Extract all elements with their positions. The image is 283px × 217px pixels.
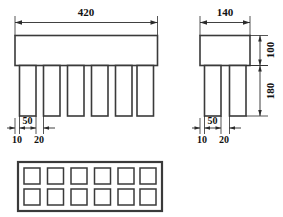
front-width-label: 420 <box>78 6 95 18</box>
front-width-arrow-right <box>151 20 158 24</box>
side-width-arrow-right <box>243 20 250 24</box>
side-legwidth-arrow-left <box>205 126 211 130</box>
front-leg-6 <box>137 66 154 117</box>
side-legwidth-label: 50 <box>208 115 218 126</box>
side-legheight-arrow-bottom <box>258 110 262 116</box>
side-elevation-view: 140 100 180 <box>192 6 276 146</box>
front-width-arrow-left <box>15 20 22 24</box>
side-legheight-arrow-top <box>258 66 262 72</box>
plan-hole-r2c4 <box>95 189 111 205</box>
plan-hole-r2c2 <box>48 189 64 205</box>
side-legheight-label: 180 <box>264 82 276 99</box>
side-leg-2 <box>230 66 247 117</box>
plan-hole-r1c4 <box>95 168 111 184</box>
plan-hole-r2c6 <box>140 189 156 205</box>
front-leg-1 <box>20 66 37 117</box>
drawing-canvas: 420 50 10 <box>0 0 283 217</box>
plan-hole-r1c1 <box>24 168 40 184</box>
side-blockheight-arrow-bottom <box>258 60 262 66</box>
front-gap-arrow <box>44 126 50 130</box>
plan-hole-r2c5 <box>118 189 134 205</box>
technical-drawing-svg: 420 50 10 <box>0 0 283 217</box>
side-blockheight-label: 100 <box>264 41 276 58</box>
front-leg-2 <box>44 66 61 117</box>
side-main-block <box>200 36 250 66</box>
front-gap-label: 20 <box>34 134 44 145</box>
front-leg-5 <box>116 66 133 117</box>
side-legwidth-arrow-right <box>216 126 222 130</box>
plan-hole-r1c2 <box>48 168 64 184</box>
side-gap-arrow <box>230 126 236 130</box>
front-legwidth-arrow-right <box>31 126 37 130</box>
front-offset-arrow <box>10 126 16 130</box>
side-offset-label: 10 <box>197 134 207 145</box>
plan-hole-r1c5 <box>118 168 134 184</box>
front-elevation-view: 420 50 10 <box>7 6 158 146</box>
side-offset-arrow <box>195 126 201 130</box>
plan-hole-r2c1 <box>24 189 40 205</box>
side-width-arrow-left <box>200 20 207 24</box>
front-leg-4 <box>92 66 109 117</box>
plan-hole-r1c3 <box>71 168 87 184</box>
side-blockheight-arrow-top <box>258 36 262 42</box>
front-main-block <box>15 36 158 66</box>
side-gap-label: 20 <box>219 134 229 145</box>
front-leg-3 <box>68 66 85 117</box>
front-offset-label: 10 <box>12 134 22 145</box>
plan-hole-r2c3 <box>71 189 87 205</box>
side-leg-1 <box>205 66 222 117</box>
bottom-plan-view <box>18 162 162 211</box>
front-legwidth-label: 50 <box>23 115 33 126</box>
side-width-label: 140 <box>217 6 234 18</box>
plan-hole-r1c6 <box>140 168 156 184</box>
front-legwidth-arrow-left <box>20 126 26 130</box>
